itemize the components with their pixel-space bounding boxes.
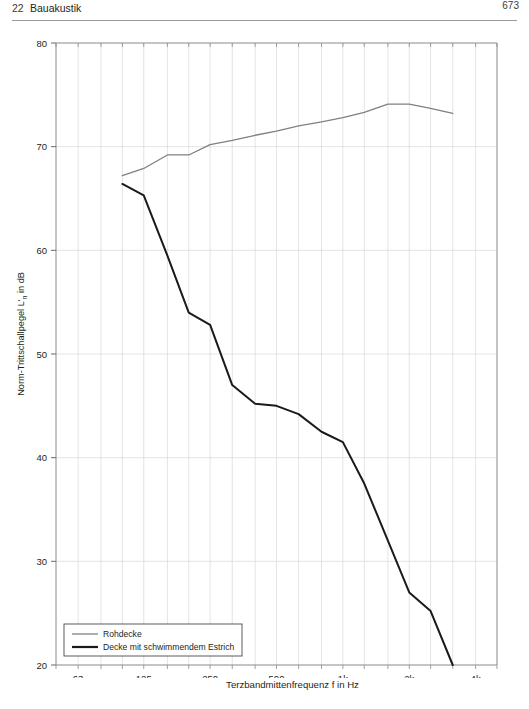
chart-canvas: 20304050607080631252505001k2k4kRohdeckeD… (0, 28, 529, 678)
y-axis-label: Norm-Trittschallpegel L'n in dB (16, 234, 28, 434)
y-tick-label: 80 (36, 38, 47, 49)
x-tick-label: 2k (404, 673, 414, 678)
series-line-estrich (122, 184, 452, 665)
page-header: 22 Bauakustik 673 (0, 0, 529, 30)
y-tick-label: 70 (36, 141, 47, 152)
y-axis-label-sub: n (21, 296, 28, 300)
figure-impact-sound-level: 20304050607080631252505001k2k4kRohdeckeD… (0, 28, 529, 688)
y-tick-label: 60 (36, 245, 47, 256)
x-tick-label: 63 (73, 673, 84, 678)
x-axis-label-wrap: Terzbandmittenfrequenz f in Hz (0, 679, 529, 690)
y-axis-label-suffix: in dB (16, 272, 26, 296)
y-tick-label: 30 (36, 556, 47, 567)
y-axis-label-prefix: Norm-Trittschallpegel L' (16, 299, 26, 395)
y-tick-label: 40 (36, 452, 47, 463)
header-divider (12, 20, 517, 21)
y-tick-label: 20 (36, 660, 47, 671)
x-tick-label: 250 (202, 673, 218, 678)
chapter-number: 22 (12, 2, 24, 14)
y-tick-label: 50 (36, 349, 47, 360)
x-tick-label: 4k (471, 673, 481, 678)
x-tick-label: 125 (136, 673, 152, 678)
legend-label-estrich: Decke mit schwimmendem Estrich (103, 642, 235, 652)
x-axis-label: Terzbandmittenfrequenz f in Hz (226, 679, 359, 690)
legend-label-rohdecke: Rohdecke (103, 629, 142, 639)
x-tick-label: 500 (269, 673, 285, 678)
page-number: 673 (502, 0, 519, 11)
chapter-title: Bauakustik (30, 2, 81, 14)
series-line-rohdecke (122, 104, 452, 176)
x-tick-label: 1k (338, 673, 348, 678)
